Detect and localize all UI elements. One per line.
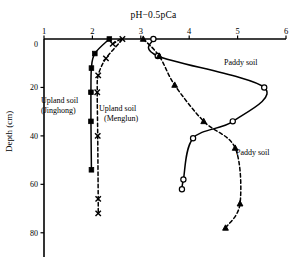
y-tick-label-1: 20: [30, 83, 38, 92]
series-0-marker-1: [93, 51, 98, 56]
series-2-marker-3: [230, 119, 235, 124]
series-1-marker-0: [110, 41, 115, 46]
series-0-marker-5: [89, 168, 94, 173]
series-2-marker-2: [262, 85, 267, 90]
y-tick-label-4: 80: [30, 228, 38, 237]
x-tick-label-5: 6: [284, 26, 288, 36]
series-3-marker-5: [237, 201, 243, 206]
figure-container: pH−0.5pCa Depth (cm) 123456 020406080 Up…: [0, 0, 307, 278]
axes-group: [41, 36, 287, 258]
annotation-upland-jinghong-line1: Upland soil: [41, 96, 78, 106]
y-tick-label-0: 0: [34, 40, 38, 49]
series-1-marker-2: [103, 56, 108, 61]
y-tick-label-2: 40: [30, 131, 38, 140]
y-tick-label-3: 60: [30, 180, 38, 189]
annotation-paddy-top: Paddy soil: [224, 58, 258, 68]
annotation-upland-jinghong: Upland soil (Jinghong): [41, 96, 78, 116]
x-tick-label-3: 4: [187, 26, 191, 36]
series-0-marker-4: [89, 119, 94, 124]
series-2-marker-4: [190, 136, 195, 141]
x-tick-label-4: 5: [235, 26, 239, 36]
series-0-marker-2: [89, 66, 94, 71]
x-tick-label-1: 2: [90, 26, 94, 36]
series-0-marker-0: [107, 37, 112, 42]
series-2-marker-5: [181, 177, 186, 182]
series-2-marker-6: [179, 187, 184, 192]
series-2-marker-0: [151, 36, 156, 41]
plot-canvas: [0, 0, 307, 278]
annotation-upland-jinghong-line2: (Jinghong): [41, 106, 78, 116]
annotation-upland-menglun: Upland soil (Menglun): [99, 104, 138, 124]
x-tick-label-2: 3: [139, 26, 143, 36]
annotation-upland-menglun-line1: Upland soil: [99, 104, 138, 114]
series-3-marker-2: [172, 82, 178, 87]
series-0-marker-3: [89, 90, 94, 95]
annotation-paddy-bottom: Paddy soil: [236, 148, 270, 158]
x-tick-label-0: 1: [42, 26, 46, 36]
annotation-upland-menglun-line2: (Menglun): [99, 114, 138, 124]
series-line-1: [97, 38, 122, 213]
